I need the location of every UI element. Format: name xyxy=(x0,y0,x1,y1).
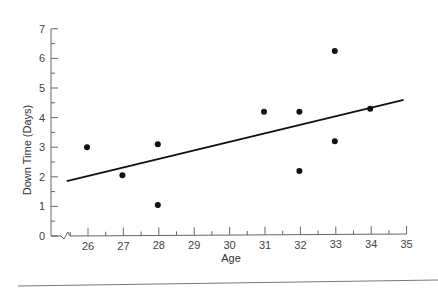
x-tick-label: 33 xyxy=(330,238,342,250)
page-rule xyxy=(18,280,438,286)
x-tick-label: 27 xyxy=(117,240,129,252)
data-point xyxy=(84,144,90,150)
x-axis: 26272829303132333435 xyxy=(51,226,413,252)
data-point xyxy=(332,138,338,144)
y-tick-label: 0 xyxy=(39,230,45,242)
x-axis-title: Age xyxy=(221,252,241,264)
data-point xyxy=(296,109,302,115)
data-point xyxy=(296,168,302,174)
y-axis: 01234567 xyxy=(39,23,58,242)
x-tick-label: 29 xyxy=(188,239,200,251)
data-point xyxy=(261,109,267,115)
y-tick-label: 2 xyxy=(39,171,45,183)
scatter-chart: 01234567 26272829303132333435 Down Time … xyxy=(0,0,438,288)
regression-line xyxy=(67,100,404,181)
data-point xyxy=(155,141,161,147)
x-tick-label: 28 xyxy=(153,239,165,251)
y-tick-label: 7 xyxy=(39,23,45,35)
data-point xyxy=(367,106,373,112)
y-tick-label: 6 xyxy=(39,52,45,64)
y-tick-label: 4 xyxy=(39,112,45,124)
x-tick-label: 34 xyxy=(365,238,377,250)
data-point xyxy=(119,172,125,178)
x-tick-label: 35 xyxy=(400,238,412,250)
y-tick-label: 3 xyxy=(39,141,45,153)
x-tick-label: 31 xyxy=(259,239,271,251)
axis-break-icon xyxy=(61,232,70,239)
y-axis-title: Down Time (Days) xyxy=(21,105,33,195)
x-tick-label: 30 xyxy=(223,239,235,251)
data-point xyxy=(332,48,338,54)
x-tick-label: 32 xyxy=(294,239,306,251)
x-tick-label: 26 xyxy=(82,240,94,252)
y-tick-label: 5 xyxy=(39,82,45,94)
data-points xyxy=(84,48,373,208)
y-tick-label: 1 xyxy=(39,200,45,212)
data-point xyxy=(155,202,161,208)
